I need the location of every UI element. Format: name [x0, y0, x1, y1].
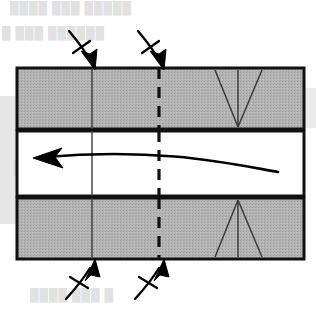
- lower-layer: [17, 198, 304, 259]
- bottom-load-arrow-left-tick: [70, 277, 88, 288]
- figure-root: ████ ███ █████ █ ███ ██████ ███████ ████…: [0, 0, 316, 318]
- middle-layer: [17, 131, 304, 196]
- bottom-load-arrow-right-head: [154, 259, 169, 281]
- bottom-load-arrow-right-shaft: [135, 268, 159, 299]
- top-load-arrow-left: [69, 31, 97, 70]
- diagram-canvas: [0, 0, 316, 318]
- upper-layer: [17, 68, 304, 129]
- bottom-load-arrow-left-head: [85, 259, 100, 281]
- bottom-load-arrow-left: [66, 259, 100, 299]
- bottom-load-arrow-right-tick: [139, 277, 157, 288]
- top-load-arrow-right: [138, 31, 166, 70]
- bottom-load-arrow-left-shaft: [66, 268, 90, 299]
- bottom-load-arrow-right: [135, 259, 169, 299]
